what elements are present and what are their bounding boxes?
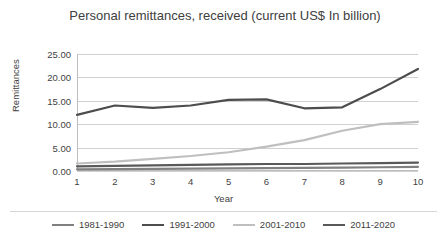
legend-label: 1991-2000 bbox=[169, 219, 214, 230]
legend-item[interactable]: 1981-1990 bbox=[52, 219, 124, 230]
legend-swatch bbox=[52, 224, 74, 226]
x-tick-label: 9 bbox=[377, 176, 382, 187]
x-tick-label: 10 bbox=[413, 176, 424, 187]
legend-swatch bbox=[323, 224, 345, 226]
x-tick-label: 5 bbox=[226, 176, 231, 187]
y-axis-label: Remittances bbox=[10, 59, 21, 112]
chart-title: Personal remittances, received (current … bbox=[40, 6, 410, 25]
y-tick-label: 15.00 bbox=[47, 95, 71, 106]
x-tick-label: 4 bbox=[188, 176, 193, 187]
legend-item[interactable]: 2001-2010 bbox=[233, 219, 305, 230]
legend-divider bbox=[10, 211, 437, 212]
legend-item[interactable]: 1991-2000 bbox=[142, 219, 214, 230]
x-tick-label: 7 bbox=[302, 176, 307, 187]
chart-container: Personal remittances, received (current … bbox=[0, 0, 447, 251]
series-line bbox=[77, 167, 418, 170]
legend-label: 1981-1990 bbox=[79, 219, 124, 230]
series-line bbox=[77, 163, 418, 167]
legend-item[interactable]: 2011-2020 bbox=[323, 219, 395, 230]
x-tick-label: 6 bbox=[264, 176, 269, 187]
x-tick-label: 1 bbox=[74, 176, 79, 187]
legend-label: 2001-2010 bbox=[260, 219, 305, 230]
legend-swatch bbox=[233, 224, 255, 226]
legend-label: 2011-2020 bbox=[350, 219, 395, 230]
gridline bbox=[77, 171, 418, 172]
y-tick-label: 20.00 bbox=[47, 72, 71, 83]
x-axis-label: Year bbox=[0, 193, 447, 204]
y-tick-label: 0.00 bbox=[53, 166, 72, 177]
y-tick-label: 5.00 bbox=[53, 142, 72, 153]
series-line bbox=[77, 122, 418, 164]
series-lines bbox=[77, 54, 418, 171]
y-tick-label: 25.00 bbox=[47, 49, 71, 60]
x-tick-label: 8 bbox=[340, 176, 345, 187]
y-tick-label: 10.00 bbox=[47, 119, 71, 130]
series-line bbox=[77, 69, 418, 115]
x-tick-label: 3 bbox=[150, 176, 155, 187]
x-tick-label: 2 bbox=[112, 176, 117, 187]
legend-swatch bbox=[142, 224, 164, 226]
chart-legend: 1981-19901991-20002001-20102011-2020 bbox=[0, 219, 447, 230]
plot-area: 0.005.0010.0015.0020.0025.00 12345678910 bbox=[77, 54, 418, 171]
